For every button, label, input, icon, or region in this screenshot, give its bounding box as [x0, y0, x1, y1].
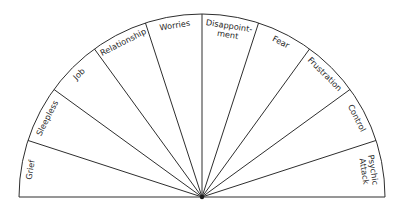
- sector-divider: [202, 49, 310, 197]
- sector-divider: [202, 89, 350, 197]
- sector-label-grief: Grief: [24, 158, 37, 180]
- sector-label-disappointment: Disappoint-ment: [204, 17, 253, 43]
- center-hub: [200, 195, 204, 199]
- sector-divider: [202, 23, 259, 197]
- sector-divider: [54, 89, 202, 197]
- sector-lines: [19, 14, 385, 197]
- sector-divider: [145, 23, 202, 197]
- sector-label-sleepless: Sleepless: [34, 99, 60, 138]
- sector-divider: [28, 140, 202, 197]
- sector-label-psychic-attack: PsychicAttack: [357, 154, 381, 187]
- sector-label-control: Control: [346, 103, 368, 134]
- sector-divider: [202, 140, 376, 197]
- pendulum-chart: GriefSleeplessJobRelationshipWorriesDisa…: [0, 0, 405, 208]
- sector-divider: [94, 49, 202, 197]
- sector-label-job: Job: [70, 66, 87, 83]
- sector-label-relationship: Relationship: [98, 26, 147, 58]
- sector-label-frustration: Frustration: [306, 55, 344, 93]
- sector-label-worries: Worries: [159, 18, 191, 33]
